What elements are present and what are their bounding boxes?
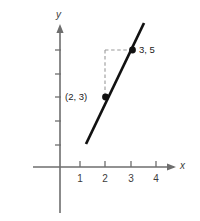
x-tick-label-4: 4 bbox=[149, 173, 163, 184]
x-tick-label-2: 2 bbox=[98, 173, 112, 184]
x-axis-ticks bbox=[80, 161, 156, 167]
data-point-2-3 bbox=[102, 94, 109, 101]
x-tick-label-1: 1 bbox=[73, 173, 87, 184]
y-axis-label: y bbox=[56, 9, 61, 20]
data-point-3-5 bbox=[129, 47, 136, 54]
coordinate-plane-figure: 1 2 3 4 x y (2, 3) 3, 5 bbox=[0, 0, 200, 221]
x-axis-arrowhead bbox=[167, 163, 176, 170]
plotted-line bbox=[86, 23, 144, 144]
y-axis-arrowhead bbox=[56, 24, 63, 33]
point-label-2-3: (2, 3) bbox=[65, 91, 87, 102]
graph-canvas bbox=[0, 0, 200, 221]
x-tick-label-3: 3 bbox=[124, 173, 138, 184]
point-label-3-5: 3, 5 bbox=[139, 44, 155, 55]
x-axis-label: x bbox=[180, 160, 185, 171]
